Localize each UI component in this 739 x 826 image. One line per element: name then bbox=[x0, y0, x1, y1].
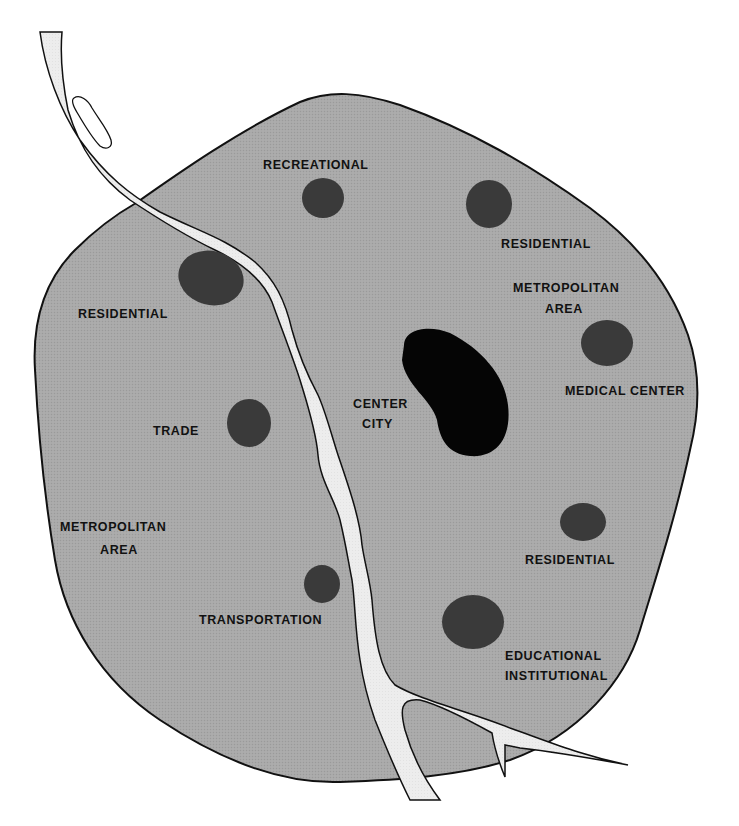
trade-label: TRADE bbox=[153, 424, 199, 438]
river-island bbox=[73, 97, 112, 148]
transportation-label: TRANSPORTATION bbox=[199, 613, 322, 627]
trade-node bbox=[227, 399, 271, 447]
metropolitan-area-ne-label-line2: AREA bbox=[545, 302, 583, 316]
metropolitan-area-w-label-line2: AREA bbox=[100, 543, 138, 557]
residential-nw-label: RESIDENTIAL bbox=[78, 307, 168, 321]
metropolitan-area-ne-label-line1: METROPOLITAN bbox=[513, 281, 619, 295]
residential-se-label: RESIDENTIAL bbox=[525, 553, 615, 567]
transportation-node bbox=[304, 565, 340, 603]
recreational-node bbox=[302, 178, 344, 218]
educational-institutional-label-line2: INSTITUTIONAL bbox=[505, 669, 608, 683]
residential-ne-label: RESIDENTIAL bbox=[501, 237, 591, 251]
center-city-label-line2: CITY bbox=[362, 417, 393, 431]
residential-se-node bbox=[560, 503, 606, 541]
medical-center-label: MEDICAL CENTER bbox=[565, 384, 685, 398]
recreational-label: RECREATIONAL bbox=[263, 158, 369, 172]
residential-ne-node bbox=[466, 180, 512, 228]
metropolitan-area-w-label-line1: METROPOLITAN bbox=[60, 520, 166, 534]
center-city-label-line1: CENTER bbox=[353, 397, 408, 411]
medical-center-node bbox=[581, 320, 633, 366]
metropolitan-land-use-map: RECREATIONAL RESIDENTIAL RESIDENTIAL MET… bbox=[0, 0, 739, 826]
educational-institutional-label-line1: EDUCATIONAL bbox=[505, 649, 602, 663]
educational-institutional-node bbox=[442, 595, 504, 649]
